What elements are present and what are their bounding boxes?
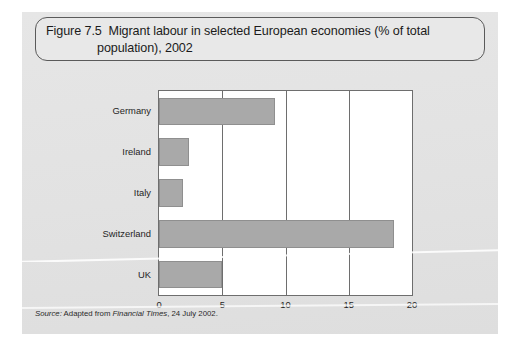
figure-title-line2: population), 2002 — [97, 41, 193, 55]
x-tick-label-5: 5 — [220, 300, 225, 309]
source-date: , 24 July 2002. — [167, 309, 218, 318]
x-tick-label-15: 15 — [344, 300, 354, 309]
category-label-uk: UK — [138, 270, 151, 279]
x-tick-label-20: 20 — [407, 300, 417, 309]
source-label: Source: — [35, 309, 62, 318]
category-label-italy: Italy — [134, 188, 151, 197]
x-tick-label-0: 0 — [156, 300, 161, 309]
source-publication: Financial Times — [113, 309, 168, 318]
bar-chart: 05101520GermanyIrelandItalySwitzerlandUK — [22, 68, 498, 300]
bar-switzerland — [159, 220, 394, 248]
x-tick-label-10: 10 — [280, 300, 290, 309]
gridline-x-10 — [286, 91, 287, 295]
figure-title-box: Figure 7.5 Migrant labour in selected Eu… — [35, 17, 485, 61]
figure-panel: Figure 7.5 Migrant labour in selected Eu… — [22, 12, 498, 334]
bar-italy — [159, 179, 183, 207]
category-label-switzerland: Switzerland — [103, 229, 151, 238]
figure-title-indent — [46, 41, 97, 55]
bar-ireland — [159, 138, 189, 166]
source-text: Adapted from — [62, 309, 113, 318]
category-label-germany: Germany — [112, 106, 151, 115]
bar-uk — [159, 261, 222, 289]
bar-germany — [159, 98, 275, 126]
figure-title-line1: Migrant labour in selected European econ… — [109, 24, 430, 38]
gridline-x-15 — [349, 91, 350, 295]
category-label-ireland: Ireland — [122, 147, 151, 156]
figure-number: Figure 7.5 — [46, 24, 102, 38]
figure-title-spacer — [102, 24, 109, 38]
source-note: Source: Adapted from Financial Times, 24… — [35, 310, 218, 318]
figure-title: Figure 7.5 Migrant labour in selected Eu… — [46, 23, 474, 56]
plot-area: 05101520GermanyIrelandItalySwitzerlandUK — [158, 90, 413, 296]
